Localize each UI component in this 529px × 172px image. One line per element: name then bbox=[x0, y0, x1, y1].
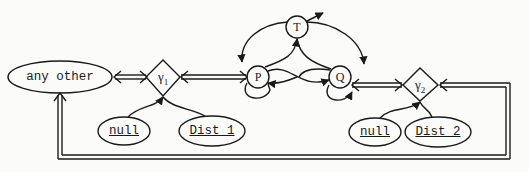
dist2-label: Dist 2 bbox=[415, 125, 460, 139]
null2-label: null bbox=[360, 125, 390, 139]
q-label: Q bbox=[336, 70, 345, 85]
gamma2-label: γ2 bbox=[415, 77, 425, 95]
diagram-canvas: any other γ1 P Q T γ2 null Dist 1 null D… bbox=[0, 0, 529, 172]
any-other-label: any other bbox=[26, 70, 94, 84]
p-label: P bbox=[255, 70, 262, 85]
diagram-edges bbox=[0, 0, 529, 172]
null1-label: null bbox=[109, 124, 139, 138]
gamma1-label: γ1 bbox=[158, 69, 168, 87]
dist1-label: Dist 1 bbox=[189, 124, 234, 138]
t-label: T bbox=[293, 20, 300, 35]
